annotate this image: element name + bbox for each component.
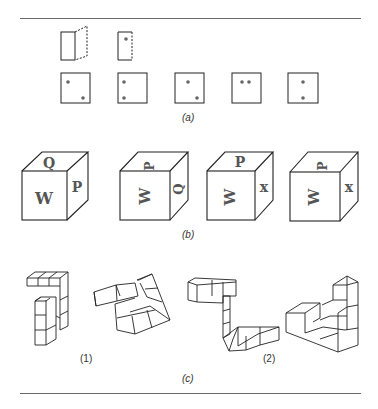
cube-3-top-letter: P	[235, 154, 246, 170]
block-structure-1a	[27, 272, 68, 345]
panel-c-pair-2-label: (2)	[263, 353, 275, 364]
cube-1-top-letter: Q	[43, 155, 55, 171]
panel-c-pair-1-label: (1)	[80, 353, 92, 364]
block-structure-1b	[94, 274, 170, 334]
cube-4-top-letter: P	[316, 161, 330, 170]
fold-illustration	[61, 26, 87, 60]
cube-4-side-letter: x	[345, 179, 354, 195]
dice-face-3	[175, 73, 204, 103]
panel-c-caption: (c)	[182, 373, 194, 384]
cube-4-front-letter: W	[305, 187, 323, 206]
cube-1-front-letter: W	[34, 189, 54, 208]
narrow-face	[118, 32, 132, 60]
block-structure-2b	[286, 276, 358, 352]
figure-canvas: Q W P P W Q P W x P W x	[0, 0, 378, 409]
dots	[66, 37, 305, 100]
panel-a-caption: (a)	[182, 112, 194, 123]
cube-2-side-letter: Q	[171, 183, 186, 194]
cube-3-front-letter: W	[221, 187, 239, 206]
cube-2-top-letter: P	[143, 161, 157, 170]
block-structure-2a	[188, 278, 279, 351]
panel-b-caption: (b)	[182, 229, 194, 240]
cube-3-side-letter: x	[260, 179, 269, 195]
dice-face-1	[61, 73, 90, 103]
cube-1-side-letter: P	[72, 179, 83, 195]
dice-face-4	[232, 73, 261, 103]
cube-2-front-letter: W	[136, 186, 154, 205]
